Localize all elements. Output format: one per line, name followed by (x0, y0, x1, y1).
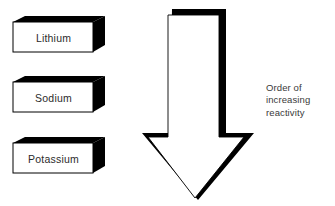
caption-line-3: reactivity (266, 107, 332, 119)
downward-arrow-icon (140, 4, 260, 204)
reactivity-diagram: Lithium Sodium Potassium Order of increa… (0, 0, 335, 206)
metal-box-label: Lithium (13, 25, 94, 51)
metal-box-potassium: Potassium (0, 135, 105, 175)
order-of-increasing-reactivity-caption: Order of increasing reactivity (266, 82, 332, 119)
metal-box-lithium: Lithium (0, 14, 105, 54)
metal-box-label: Potassium (13, 146, 94, 172)
caption-line-2: increasing (266, 94, 332, 106)
metal-box-sodium: Sodium (0, 74, 105, 114)
caption-line-1: Order of (266, 82, 332, 94)
metal-box-label: Sodium (13, 85, 94, 111)
increasing-reactivity-arrow-icon (140, 4, 260, 204)
